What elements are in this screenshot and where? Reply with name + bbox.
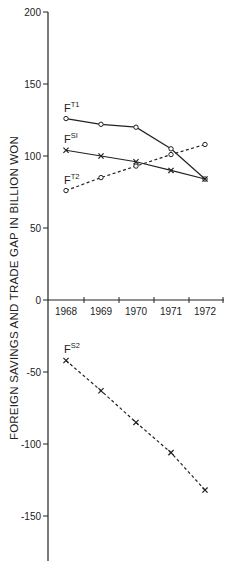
y-tick-label: 200 <box>24 7 41 18</box>
series-label: FSI <box>64 131 78 145</box>
series-label: FT2 <box>64 172 80 186</box>
circle-marker-icon <box>64 188 68 192</box>
y-tick-label: 50 <box>30 223 42 234</box>
y-tick-label: 0 <box>35 295 41 306</box>
y-tick-label: -150 <box>21 511 41 522</box>
y-axis-title-group: FOREIGN SAVINGS AND TRADE GAP IN BILLION… <box>8 136 20 440</box>
series-s2: FS2 <box>63 341 207 492</box>
series-label: FS2 <box>64 341 80 355</box>
y-tick-label: 100 <box>24 151 41 162</box>
circle-marker-icon <box>134 125 138 129</box>
x-marker-icon <box>98 388 103 393</box>
circle-marker-icon <box>203 142 207 146</box>
y-axis: 200150100500-50-100-150 <box>21 7 48 562</box>
x-axis: 19681969197019711972 <box>48 297 224 317</box>
circle-marker-icon <box>169 152 173 156</box>
y-tick-label: 150 <box>24 79 41 90</box>
x-marker-icon <box>133 420 138 425</box>
foreign-savings-chart: FOREIGN SAVINGS AND TRADE GAP IN BILLION… <box>0 0 233 571</box>
series-layer: FT1FSIFT2FS2 <box>63 100 207 493</box>
x-tick-label: 1971 <box>160 306 183 317</box>
x-tick-label: 1968 <box>55 306 78 317</box>
circle-marker-icon <box>134 164 138 168</box>
x-marker-icon <box>63 358 68 363</box>
y-axis-title: FOREIGN SAVINGS AND TRADE GAP IN BILLION… <box>8 136 20 440</box>
series-label: FT1 <box>64 100 80 114</box>
circle-marker-icon <box>169 147 173 151</box>
x-tick-label: 1970 <box>125 306 148 317</box>
series-line <box>66 360 205 490</box>
x-marker-icon <box>202 487 207 492</box>
series-t1: FT1 <box>64 100 207 182</box>
circle-marker-icon <box>99 122 103 126</box>
x-tick-label: 1969 <box>90 306 113 317</box>
series-t2: FT2 <box>64 142 207 192</box>
series-si: FSI <box>63 131 207 181</box>
x-marker-icon <box>168 450 173 455</box>
x-tick-label: 1972 <box>194 306 217 317</box>
circle-marker-icon <box>99 175 103 179</box>
circle-marker-icon <box>64 116 68 120</box>
y-tick-label: -100 <box>21 439 41 450</box>
y-tick-label: -50 <box>27 367 42 378</box>
